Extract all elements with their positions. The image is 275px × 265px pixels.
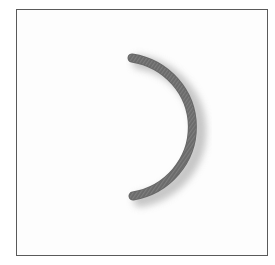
c-ring-photo [0, 0, 275, 265]
image-stage [0, 0, 275, 265]
